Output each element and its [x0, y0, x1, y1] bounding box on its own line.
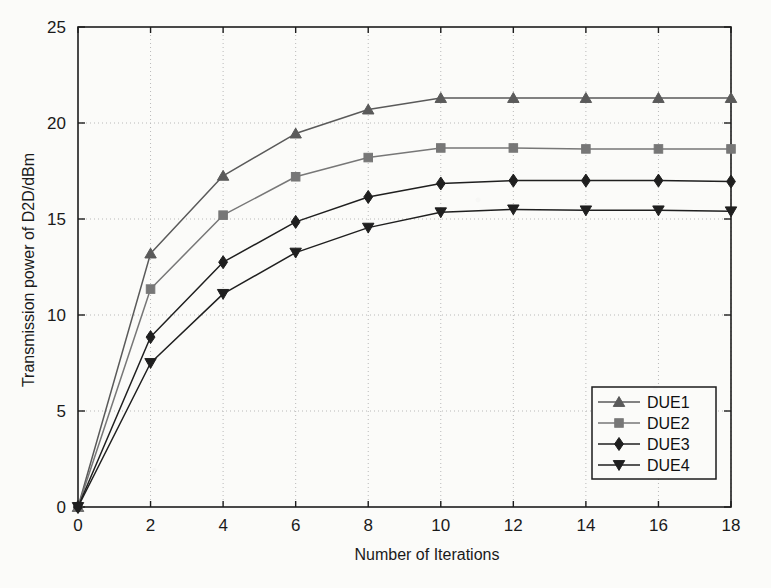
data-point-marker [219, 211, 228, 220]
legend-label: DUE4 [647, 457, 690, 474]
x-axis-title: Number of Iterations [355, 546, 500, 563]
y-tick-label: 25 [47, 18, 66, 37]
x-tick-label: 16 [649, 516, 668, 535]
data-point-marker [291, 172, 300, 181]
data-point-marker [364, 153, 373, 162]
y-tick-label: 5 [57, 402, 66, 421]
x-tick-label: 14 [576, 516, 595, 535]
x-tick-label: 10 [431, 516, 450, 535]
data-point-marker [437, 144, 446, 153]
data-point-marker [654, 145, 663, 154]
x-tick-label: 18 [722, 516, 741, 535]
x-tick-label: 0 [73, 516, 82, 535]
legend-label: DUE2 [647, 415, 690, 432]
chart-background [0, 0, 771, 588]
data-point-marker [727, 145, 736, 154]
legend-label: DUE3 [647, 436, 690, 453]
line-chart: 0246810121416180510152025 DUE1DUE2DUE3DU… [0, 0, 771, 588]
data-point-marker [582, 145, 591, 154]
legend-label: DUE1 [647, 394, 690, 411]
data-point-marker [146, 285, 155, 294]
x-tick-label: 6 [291, 516, 300, 535]
x-tick-label: 4 [218, 516, 227, 535]
chart-legend: DUE1DUE2DUE3DUE4 [592, 387, 716, 479]
x-tick-label: 8 [363, 516, 372, 535]
data-point-marker [509, 144, 518, 153]
y-axis-title: Transmission power of D2D/dBm [20, 153, 37, 387]
y-tick-label: 20 [47, 114, 66, 133]
legend-marker-icon [615, 419, 624, 428]
x-tick-label: 2 [146, 516, 155, 535]
chart-figure: 0246810121416180510152025 DUE1DUE2DUE3DU… [0, 0, 771, 588]
x-tick-label: 12 [504, 516, 523, 535]
y-tick-label: 10 [47, 306, 66, 325]
y-tick-label: 0 [57, 498, 66, 517]
y-tick-label: 15 [47, 210, 66, 229]
